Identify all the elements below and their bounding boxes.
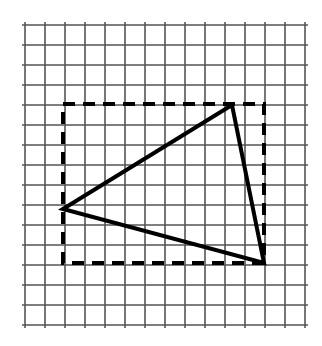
geometry-figure [0, 0, 322, 346]
figure-background [0, 0, 322, 346]
figure-canvas [0, 0, 322, 346]
